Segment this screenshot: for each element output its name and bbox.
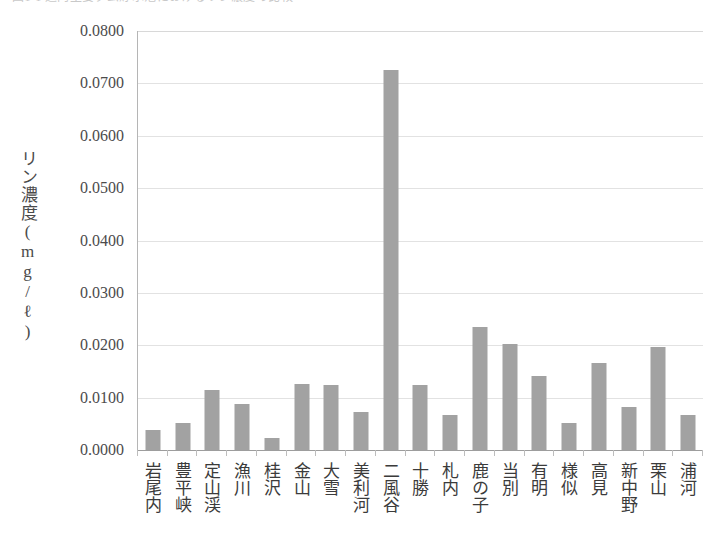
x-axis-category-label: 二風谷 [377,462,402,541]
bar-slot [644,31,674,450]
bar[interactable] [651,347,666,450]
x-axis-category-label: 高見 [585,462,610,541]
x-axis-label-slot: 二風谷 [375,462,405,541]
y-axis-tick-labels: 0.08000.07000.06000.05000.04000.03000.02… [34,31,130,450]
x-axis-category-label: 定山渓 [199,462,224,541]
y-axis-tick-label: 0.0200 [80,337,124,353]
bar[interactable] [324,385,339,450]
x-axis-label-slot: 豊平峡 [167,462,197,541]
x-axis-category-label: 大雪 [318,462,343,541]
x-axis-label-slot: 金山 [286,462,316,541]
x-axis-tick [553,450,554,456]
x-axis-label-slot: 鹿の子 [464,462,494,541]
x-axis-category-label: 浦河 [675,462,700,541]
bar-slot [287,31,317,450]
bar-slot [584,31,614,450]
x-axis-tick [315,450,316,456]
bar-slot [346,31,376,450]
x-axis-category-label: 漁川 [229,462,254,541]
bar[interactable] [502,344,517,450]
x-axis-category-label: 鹿の子 [466,462,491,541]
bar[interactable] [235,404,250,450]
x-axis-label-slot: 定山渓 [196,462,226,541]
x-axis-label-slot: 岩尾内 [137,462,167,541]
bar-slot [406,31,436,450]
bar[interactable] [264,438,279,450]
bar[interactable] [532,376,547,450]
bar[interactable] [175,423,190,450]
x-axis-category-label: 桂沢 [258,462,283,541]
x-axis-tick [643,450,644,456]
x-axis-tick [613,450,614,456]
x-axis-label-slot: 美利河 [345,462,375,541]
bar-slot [376,31,406,450]
x-axis-tick [464,450,465,456]
bar-slot [525,31,555,450]
x-axis-category-label: 当別 [496,462,521,541]
x-axis-label-slot: 高見 [583,462,613,541]
bar[interactable] [354,412,369,450]
bar[interactable] [562,423,577,450]
x-axis-label-slot: 漁川 [226,462,256,541]
y-axis-tick-label: 0.0000 [80,442,124,458]
x-axis-category-label: 美利河 [348,462,373,541]
x-axis-tick [494,450,495,456]
y-axis-tick-label: 0.0700 [80,75,124,91]
y-axis-tick-label: 0.0100 [80,390,124,406]
x-axis-tick [286,450,287,456]
x-axis-category-label: 十勝 [407,462,432,541]
x-axis-tick [345,450,346,456]
x-axis-category-label: 新中野 [615,462,640,541]
x-axis-tick [405,450,406,456]
x-axis-label-slot: 栗山 [643,462,673,541]
bar-slot [614,31,644,450]
x-axis-tick [226,450,227,456]
x-axis-tick [196,450,197,456]
x-axis-tick [375,450,376,456]
bar-slot [227,31,257,450]
bar[interactable] [383,70,398,450]
y-axis-tick-label: 0.0600 [80,128,124,144]
bar-chart: リン濃度(mg/ℓ) 0.08000.07000.06000.05000.040… [0,0,721,541]
bar[interactable] [591,363,606,450]
x-axis-label-slot: 当別 [494,462,524,541]
plot-area [137,31,703,451]
bar[interactable] [621,407,636,450]
y-axis-tick-label: 0.0800 [80,23,124,39]
x-axis-category-labels: 岩尾内豊平峡定山渓漁川桂沢金山大雪美利河二風谷十勝札内鹿の子当別有明様似高見新中… [137,462,702,541]
x-axis-tick [583,450,584,456]
x-axis-tick [137,450,138,456]
bar-slot [316,31,346,450]
x-axis-tick [702,450,703,456]
bar[interactable] [205,390,220,450]
x-axis-tick [672,450,673,456]
y-axis-tick-label: 0.0500 [80,180,124,196]
bar[interactable] [413,385,428,450]
bar[interactable] [294,384,309,450]
x-axis-tick [434,450,435,456]
bar[interactable] [145,430,160,450]
bar-slot [673,31,703,450]
x-axis-category-label: 有明 [526,462,551,541]
x-axis-label-slot: 札内 [434,462,464,541]
x-axis-category-label: 様似 [556,462,581,541]
bar-slot [257,31,287,450]
x-axis-category-label: 金山 [288,462,313,541]
bar-slot [138,31,168,450]
x-axis-label-slot: 十勝 [405,462,435,541]
x-axis-category-label: 岩尾内 [139,462,164,541]
x-axis-label-slot: 桂沢 [256,462,286,541]
bar[interactable] [443,415,458,450]
x-axis-label-slot: 様似 [553,462,583,541]
y-axis-tick-label: 0.0300 [80,285,124,301]
bar-slot [197,31,227,450]
x-axis-label-slot: 有明 [524,462,554,541]
x-axis-label-slot: 新中野 [613,462,643,541]
bar[interactable] [681,415,696,450]
bars-layer [138,31,703,450]
x-axis-label-slot: 大雪 [315,462,345,541]
bar[interactable] [472,327,487,450]
bar-slot [465,31,495,450]
x-axis-tick [256,450,257,456]
y-axis-tick-label: 0.0400 [80,233,124,249]
